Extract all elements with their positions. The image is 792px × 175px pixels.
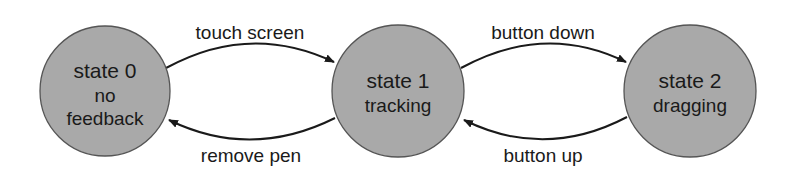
state-0-line-2: feedback: [66, 108, 144, 129]
state-node-0: state 0 no feedback: [40, 26, 170, 156]
state-node-2: state 2 dragging: [624, 25, 756, 157]
edge-label-remove-pen: remove pen: [201, 145, 301, 166]
edge-remove-pen: [169, 118, 335, 140]
edge-label-button-down: button down: [491, 22, 595, 43]
state-1-title: state 1: [366, 69, 429, 92]
state-diagram: touch screen remove pen button down butt…: [0, 0, 792, 175]
state-2-line-1: dragging: [653, 95, 727, 116]
edge-touch-screen: [166, 43, 334, 68]
edge-button-up: [464, 117, 627, 139]
state-1-line-1: tracking: [365, 95, 432, 116]
state-0-title: state 0: [73, 59, 136, 82]
edge-label-touch-screen: touch screen: [196, 22, 305, 43]
state-0-line-1: no: [94, 85, 115, 106]
state-node-1: state 1 tracking: [332, 25, 464, 157]
edge-button-down: [461, 43, 626, 68]
state-2-title: state 2: [658, 69, 721, 92]
edge-label-button-up: button up: [503, 145, 582, 166]
